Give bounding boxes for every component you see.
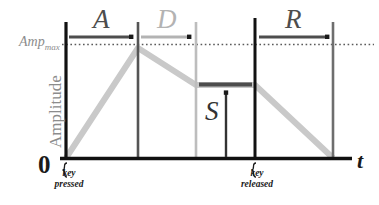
key-pressed-line2: pressed (40, 179, 98, 190)
x-axis-title: t (357, 150, 363, 172)
adsr-envelope-figure: A D S R Ampmax Amplitude 0 t key pressed… (0, 0, 379, 205)
envelope-path (66, 48, 333, 158)
amp-max-label: Ampmax (19, 35, 60, 52)
amp-max-base: Amp (19, 34, 45, 49)
y-axis-title: Amplitude (47, 75, 64, 148)
phase-letter-sustain: S (205, 98, 219, 125)
phase-letter-decay: D (157, 6, 177, 33)
phase-letter-release: R (285, 6, 302, 33)
attack-span-bar (69, 35, 133, 39)
key-pressed-line1: key (40, 168, 98, 179)
key-released-line1: key (228, 168, 286, 179)
release-span-bar (259, 35, 329, 39)
envelope-curve (66, 48, 333, 158)
key-released-annotation: key released (228, 168, 286, 190)
decay-span-bar (141, 35, 191, 39)
sustain-measure-line (224, 90, 228, 157)
amp-max-subscript: max (45, 42, 60, 52)
key-pressed-annotation: key pressed (40, 168, 98, 190)
phase-letter-attack: A (93, 6, 110, 33)
key-released-line2: released (228, 179, 286, 190)
